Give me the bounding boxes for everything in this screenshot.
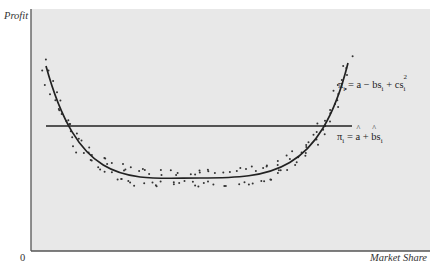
scatter-point xyxy=(144,169,146,171)
eq-part: + xyxy=(360,131,371,142)
eq-part: = xyxy=(344,131,355,142)
scatter-point xyxy=(124,169,126,171)
scatter-point xyxy=(229,171,231,173)
scatter-point xyxy=(111,171,113,173)
scatter-point xyxy=(329,109,331,111)
scatter-point xyxy=(286,155,288,157)
scatter-point xyxy=(225,185,227,187)
scatter-point xyxy=(133,185,135,187)
scatter-point xyxy=(203,182,205,184)
scatter-point xyxy=(143,182,145,184)
scatter-point xyxy=(142,168,144,170)
linear-equation-label: πi = ^a + ^bsi xyxy=(337,131,383,145)
scatter-point xyxy=(245,168,247,170)
scatter-point xyxy=(308,141,310,143)
scatter-point xyxy=(262,167,264,169)
scatter-point xyxy=(192,181,194,183)
scatter-point xyxy=(255,170,257,172)
scatter-point xyxy=(329,120,331,122)
scatter-point xyxy=(324,133,326,135)
scatter-point xyxy=(52,80,54,82)
scatter-point xyxy=(239,167,241,169)
scatter-point xyxy=(91,159,93,161)
scatter-point xyxy=(238,183,240,185)
scatter-point xyxy=(76,133,78,135)
scatter-point xyxy=(305,146,307,148)
scatter-point xyxy=(280,169,282,171)
scatter-point xyxy=(173,181,175,183)
eq-part: + cs xyxy=(384,79,404,90)
scatter-point xyxy=(346,74,348,76)
scatter-point xyxy=(161,174,163,176)
scatter-point xyxy=(252,182,254,184)
scatter-point xyxy=(277,172,279,174)
x-axis-label: Market Share xyxy=(370,252,427,263)
scatter-point xyxy=(122,163,124,165)
scatter-point xyxy=(244,181,246,183)
scatter-point xyxy=(121,178,123,180)
scatter-point xyxy=(75,151,77,153)
quadratic-equation-label: πi = a − bsi + csi2 xyxy=(338,79,405,93)
y-axis-label: Profit xyxy=(4,10,28,21)
scatter-point xyxy=(248,184,250,186)
scatter-point xyxy=(106,163,108,165)
scatter-point xyxy=(277,160,279,162)
scatter-point xyxy=(199,172,201,174)
scatter-point xyxy=(45,59,47,61)
scatter-point xyxy=(342,65,344,67)
scatter-point xyxy=(71,136,73,138)
scatter-point xyxy=(138,170,140,172)
scatter-point xyxy=(294,164,296,166)
scatter-point xyxy=(333,90,335,92)
scatter-point xyxy=(352,55,354,57)
scatter-point xyxy=(278,169,280,171)
scatter-point xyxy=(222,171,224,173)
scatter-point xyxy=(44,84,46,86)
scatter-point xyxy=(316,123,318,125)
eq-sub: i xyxy=(381,137,383,145)
scatter-point xyxy=(214,172,216,174)
scatter-point xyxy=(197,186,199,188)
scatter-point xyxy=(313,134,315,136)
scatter-point xyxy=(194,185,196,187)
scatter-point xyxy=(263,180,265,182)
scatter-point xyxy=(199,170,201,172)
scatter-point xyxy=(170,169,172,171)
scatter-point xyxy=(277,164,279,166)
scatter-point xyxy=(97,166,99,168)
scatter-point xyxy=(207,180,209,182)
scatter-point xyxy=(316,131,318,133)
scatter-point xyxy=(148,173,150,175)
scatter-point xyxy=(212,184,214,186)
scatter-point xyxy=(291,150,293,152)
eq-part: = a − bs xyxy=(345,79,381,90)
scatter-point xyxy=(324,120,326,122)
scatter-point xyxy=(156,185,158,187)
scatter-point xyxy=(56,91,58,93)
scatter-point xyxy=(289,158,291,160)
scatter-point xyxy=(99,168,101,170)
scatter-point xyxy=(130,166,132,168)
scatter-point xyxy=(72,145,74,147)
scatter-point xyxy=(178,182,180,184)
origin-label: 0 xyxy=(20,252,25,263)
scatter-point xyxy=(251,166,253,168)
scatter-point xyxy=(190,173,192,175)
scatter-point xyxy=(184,180,186,182)
scatter-point xyxy=(88,147,90,149)
scatter-point xyxy=(236,170,238,172)
scatter-point xyxy=(160,180,162,182)
scatter-point xyxy=(160,169,162,171)
scatter-point xyxy=(104,171,106,173)
scatter-point xyxy=(67,119,69,121)
scatter-point xyxy=(173,183,175,185)
scatter-point xyxy=(127,180,129,182)
scatter-point xyxy=(49,93,51,95)
scatter-point xyxy=(103,157,105,159)
scatter-point xyxy=(304,155,306,157)
scatter-point xyxy=(59,99,61,101)
eq-sub: i xyxy=(403,85,405,93)
scatter-point xyxy=(286,169,288,171)
eq-sup: 2 xyxy=(403,73,407,81)
scatter-point xyxy=(78,138,80,140)
